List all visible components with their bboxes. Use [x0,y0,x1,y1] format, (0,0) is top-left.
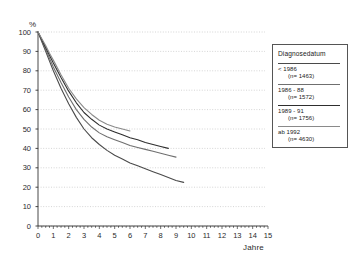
legend-entry-count: (n= 1463) [278,73,342,81]
y-tick-label: 40 [9,144,31,153]
y-tick-label: 10 [9,202,31,211]
gridlines [38,32,265,226]
x-tick-label: 0 [31,231,45,240]
legend-entry: ab 1992(n= 4630) [278,126,342,144]
x-tick-label: 15 [261,231,275,240]
curve-1986 [38,32,184,182]
x-tick-label: 14 [246,231,260,240]
legend-entry-label: 1986 - 88 [278,87,342,95]
legend-line-swatch [278,105,340,106]
y-tick-label: 60 [9,105,31,114]
legend-entries: < 1986(n= 1463)1986 - 88(n= 1572)1989 - … [278,63,342,144]
legend-entry-count: (n= 1756) [278,115,342,123]
x-tick-marks [38,226,268,229]
data-curves [38,32,184,182]
y-tick-label: 30 [9,163,31,172]
x-tick-label: 6 [123,231,137,240]
legend-entry: 1986 - 88(n= 1572) [278,84,342,102]
y-tick-label: 80 [9,66,31,75]
survival-chart-figure: % Jahre 0102030405060708090100 012345678… [0,0,354,266]
x-tick-label: 13 [230,231,244,240]
legend-entry-label: ab 1992 [278,129,342,137]
y-tick-label: 20 [9,183,31,192]
x-tick-label: 10 [184,231,198,240]
legend-entry-count: (n= 1572) [278,94,342,102]
legend-entry-count: (n= 4630) [278,136,342,144]
x-tick-label: 3 [77,231,91,240]
x-tick-label: 9 [169,231,183,240]
y-tick-label: 50 [9,125,31,134]
legend-entry: 1989 - 91(n= 1756) [278,105,342,123]
x-tick-label: 8 [154,231,168,240]
legend-entry-label: 1989 - 91 [278,108,342,116]
x-tick-label: 1 [46,231,60,240]
x-tick-label: 5 [108,231,122,240]
x-tick-label: 12 [215,231,229,240]
x-tick-label: 7 [138,231,152,240]
y-tick-label: 90 [9,47,31,56]
legend-box: Diagnosedatum < 1986(n= 1463)1986 - 88(n… [272,44,348,148]
curve-1986-88 [38,32,176,157]
y-tick-label: 0 [9,222,31,231]
y-tick-label: 100 [9,28,31,37]
curve-ab-1992 [38,32,130,131]
x-tick-label: 4 [92,231,106,240]
legend-line-swatch [278,126,340,127]
y-tick-label: 70 [9,86,31,95]
legend-entry-label: < 1986 [278,66,342,74]
legend-line-swatch [278,84,340,85]
x-axis-label: Jahre [243,243,264,252]
x-tick-label: 2 [62,231,76,240]
legend-title: Diagnosedatum [278,50,342,57]
legend-line-swatch [278,63,340,64]
legend-entry: < 1986(n= 1463) [278,63,342,81]
x-tick-label: 11 [200,231,214,240]
